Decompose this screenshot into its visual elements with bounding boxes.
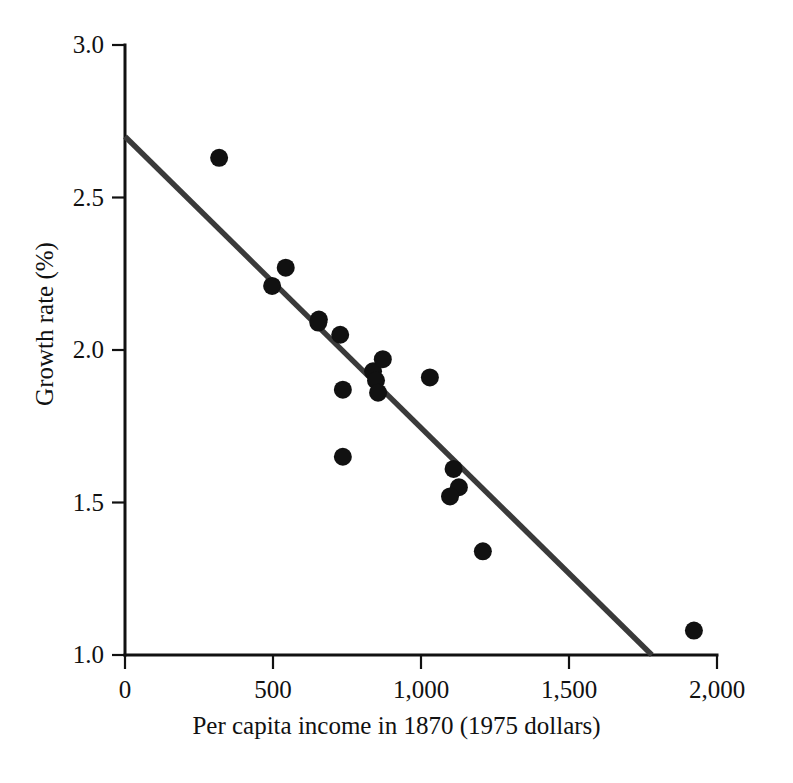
regression-line-segment xyxy=(125,137,652,656)
y-axis-title: Growth rate (%) xyxy=(31,174,59,474)
data-point xyxy=(445,460,463,478)
data-point xyxy=(374,350,392,368)
x-tick-label: 0 xyxy=(65,677,185,702)
axes-group xyxy=(125,45,717,655)
y-tick-label: 3.0 xyxy=(20,32,104,57)
data-point xyxy=(685,622,703,640)
y-tick-label: 1.5 xyxy=(20,490,104,515)
regression-line xyxy=(125,137,652,656)
data-point xyxy=(309,314,327,332)
x-tick-marks xyxy=(125,655,717,669)
y-tick-marks xyxy=(112,45,125,655)
y-tick-label: 1.0 xyxy=(20,642,104,667)
x-tick-label: 500 xyxy=(213,677,333,702)
data-point xyxy=(421,368,439,386)
data-point xyxy=(474,542,492,560)
scatter-plot-figure: 1.01.52.02.53.0 05001,0001,5002,000 Per … xyxy=(0,0,793,783)
data-point xyxy=(277,259,295,277)
x-axis-title: Per capita income in 1870 (1975 dollars) xyxy=(0,712,793,740)
x-tick-label: 2,000 xyxy=(657,677,777,702)
data-point xyxy=(369,384,387,402)
data-points-group xyxy=(210,149,703,640)
x-tick-label: 1,000 xyxy=(361,677,481,702)
data-point xyxy=(331,326,349,344)
data-point xyxy=(334,381,352,399)
plot-canvas xyxy=(0,0,793,783)
data-point xyxy=(334,448,352,466)
data-point xyxy=(263,277,281,295)
data-point xyxy=(210,149,228,167)
data-point xyxy=(441,487,459,505)
x-tick-label: 1,500 xyxy=(509,677,629,702)
